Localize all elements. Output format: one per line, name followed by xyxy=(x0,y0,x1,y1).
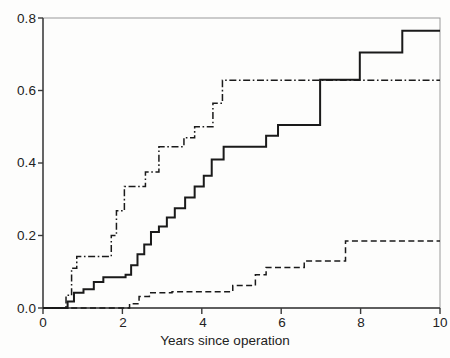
y-tick-label-3: 0.2 xyxy=(2,229,36,243)
data-series-group xyxy=(43,31,440,308)
chart-container: 0.8 0.6 0.4 0.2 0.0 0 2 4 6 8 10 Years s… xyxy=(0,0,450,358)
y-tick-label-1: 0.6 xyxy=(2,84,36,98)
series-solid-curve xyxy=(43,31,440,308)
y-tick-label-0: 0.8 xyxy=(2,12,36,26)
x-tick-label-4: 8 xyxy=(346,316,376,330)
x-tick-label-1: 2 xyxy=(108,316,138,330)
x-tick-label-2: 4 xyxy=(188,316,218,330)
chart-plot-area xyxy=(0,0,450,358)
y-tick-label-4: 0.0 xyxy=(2,302,36,316)
x-tick-label-0: 0 xyxy=(28,316,58,330)
x-tick-label-5: 10 xyxy=(425,316,450,330)
series-dashed-curve xyxy=(43,241,440,308)
series-dash-dot-curve xyxy=(43,80,440,308)
x-tick-label-3: 6 xyxy=(267,316,297,330)
x-axis-title: Years since operation xyxy=(0,334,450,348)
axis-ticks xyxy=(38,18,440,314)
plot-frame xyxy=(43,18,440,308)
y-tick-label-2: 0.4 xyxy=(2,156,36,170)
